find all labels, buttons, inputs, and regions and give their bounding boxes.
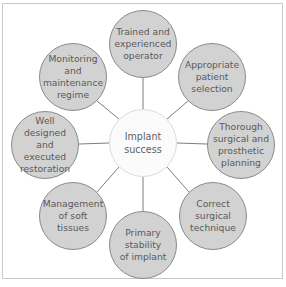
- node-label-line: prosthetic: [213, 145, 269, 157]
- node-label-line: regime: [43, 89, 103, 101]
- node-restoration: Well designed and executed restoration: [11, 111, 79, 179]
- node-trained-operator: Trained and experienced operator: [109, 10, 177, 78]
- node-label-line: surgical and: [213, 133, 269, 145]
- link-patient-selection: [167, 101, 188, 119]
- node-label-line: selection: [185, 83, 239, 95]
- node-label-line: maintenance: [43, 77, 103, 89]
- node-label-line: Management: [43, 198, 104, 210]
- node-label-line: operator: [115, 50, 172, 62]
- center-label-line: Implant: [124, 130, 162, 143]
- center-label-line: success: [124, 143, 162, 156]
- node-monitoring: Monitoring and maintenance regime: [39, 43, 107, 111]
- node-label-line: Trained and: [115, 26, 172, 38]
- node-label-line: Appropriate: [185, 59, 239, 71]
- node-label-line: Well designed: [16, 115, 74, 139]
- node-label-line: technique: [190, 222, 236, 234]
- node-patient-selection: Appropriate patient selection: [178, 43, 246, 111]
- link-planning: [177, 143, 207, 144]
- node-label-line: Primary: [120, 227, 167, 239]
- node-label-line: of soft tissues: [43, 210, 104, 234]
- link-soft-tissues: [97, 167, 119, 192]
- node-label-line: of implant: [120, 251, 167, 263]
- node-label-line: stability: [120, 239, 167, 251]
- link-restoration: [79, 143, 109, 144]
- node-label-line: Correct: [190, 198, 236, 210]
- node-label-line: experienced: [115, 38, 172, 50]
- node-label-line: planning: [213, 157, 269, 169]
- link-monitoring: [97, 101, 119, 119]
- node-surgical-technique: Correct surgical technique: [179, 182, 247, 250]
- link-surgical-technique: [167, 167, 189, 192]
- node-label-line: and: [43, 65, 103, 77]
- node-soft-tissues: Management of soft tissues: [39, 182, 107, 250]
- node-label-line: and executed: [16, 139, 74, 163]
- node-primary-stability: Primary stability of implant: [109, 211, 177, 279]
- node-label-line: patient: [185, 71, 239, 83]
- node-planning: Thorough surgical and prosthetic plannin…: [207, 111, 275, 179]
- node-implant-success: Implant success: [109, 109, 177, 177]
- node-label-line: surgical: [190, 210, 236, 222]
- node-label-line: Monitoring: [43, 53, 103, 65]
- node-label-line: restoration: [16, 163, 74, 175]
- node-label-line: Thorough: [213, 121, 269, 133]
